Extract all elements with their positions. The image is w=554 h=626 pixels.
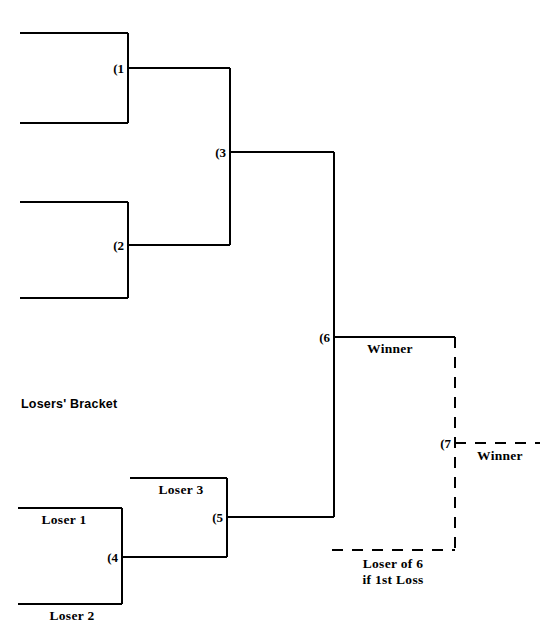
game6-number: (6 xyxy=(319,331,330,344)
loser-of-6-note: Loser of 6 if 1st Loss xyxy=(362,556,423,588)
game6-winner-label: Winner xyxy=(367,342,413,356)
game3-number: (3 xyxy=(215,146,226,159)
game7-number: (7 xyxy=(440,437,451,450)
losers-bracket-heading: Losers' Bracket xyxy=(21,398,117,411)
game2-number: (2 xyxy=(113,239,124,252)
game1-number: (1 xyxy=(113,62,124,75)
loser-3-label: Loser 3 xyxy=(159,483,204,497)
game4-number: (4 xyxy=(107,551,118,564)
loser-of-6-note-line2: if 1st Loss xyxy=(362,572,423,588)
loser-1-label: Loser 1 xyxy=(42,513,87,527)
game7-winner-label: Winner xyxy=(477,449,523,463)
bracket-diagram: (1 (2 (3 (4 (5 (6 (7 Losers' Bracket Los… xyxy=(0,0,554,626)
loser-of-6-note-line1: Loser of 6 xyxy=(362,556,423,572)
bracket-lines xyxy=(0,0,554,626)
game5-number: (5 xyxy=(212,511,223,524)
loser-2-label: Loser 2 xyxy=(50,609,95,623)
